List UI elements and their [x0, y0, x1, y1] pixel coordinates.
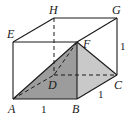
edge-length-CG: 1 [120, 40, 126, 52]
cube-svg: H G E F D C A B 1 1 1 [0, 0, 130, 118]
vertex-label-D: D [47, 78, 57, 92]
vertex-label-A: A [7, 102, 16, 116]
vertex-label-H: H [48, 3, 59, 17]
edge-length-BC: 1 [98, 88, 104, 100]
edge-length-AB: 1 [41, 103, 47, 115]
vertex-label-E: E [6, 27, 15, 41]
cube-diagram: H G E F D C A B 1 1 1 [0, 0, 130, 118]
edge-EH [13, 18, 54, 42]
vertex-label-F: F [82, 37, 91, 51]
vertex-label-C: C [114, 78, 123, 92]
vertex-label-G: G [112, 3, 121, 17]
vertex-label-B: B [72, 102, 80, 116]
